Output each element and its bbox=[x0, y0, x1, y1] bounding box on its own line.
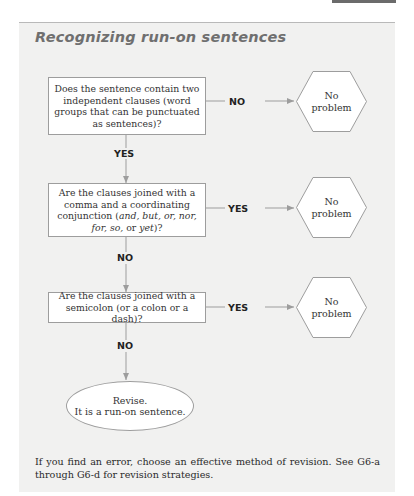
question-box-2: Are the clauses joined with a comma and … bbox=[48, 183, 206, 237]
branch-label-no-3: NO bbox=[117, 340, 133, 351]
outcome-hexagon-1: Noproblem bbox=[296, 71, 367, 132]
outcome-2-line2: problem bbox=[311, 208, 351, 219]
outcome-3-line1: No bbox=[324, 296, 338, 307]
branch-label-yes-2: YES bbox=[228, 203, 248, 214]
question-1-text: Does the sentence contain two independen… bbox=[53, 83, 201, 129]
terminal-line2: It is a run-on sentence. bbox=[74, 406, 185, 417]
question-3-text: Are the clauses joined with a semicolon … bbox=[53, 290, 201, 325]
outcome-1-line2: problem bbox=[311, 102, 351, 113]
branch-label-yes-1: YES bbox=[114, 148, 134, 159]
branch-label-yes-3: YES bbox=[228, 302, 248, 313]
terminal-ellipse: Revise.It is a run-on sentence. bbox=[66, 381, 194, 431]
question-box-1: Does the sentence contain two independen… bbox=[48, 77, 206, 135]
outcome-hexagon-3: Noproblem bbox=[296, 277, 367, 338]
question-2-text: Are the clauses joined with a comma and … bbox=[53, 187, 201, 233]
outcome-2-line1: No bbox=[324, 196, 338, 207]
branch-label-no-1: NO bbox=[229, 96, 245, 107]
terminal-line1: Revise. bbox=[113, 395, 148, 406]
outcome-hexagon-2: Noproblem bbox=[296, 177, 367, 238]
branch-label-no-2: NO bbox=[117, 252, 133, 263]
revision-note: If you find an error, choose an effectiv… bbox=[35, 455, 380, 481]
outcome-1-line1: No bbox=[324, 90, 338, 101]
outcome-3-line2: problem bbox=[311, 308, 351, 319]
question-box-3: Are the clauses joined with a semicolon … bbox=[48, 292, 206, 323]
